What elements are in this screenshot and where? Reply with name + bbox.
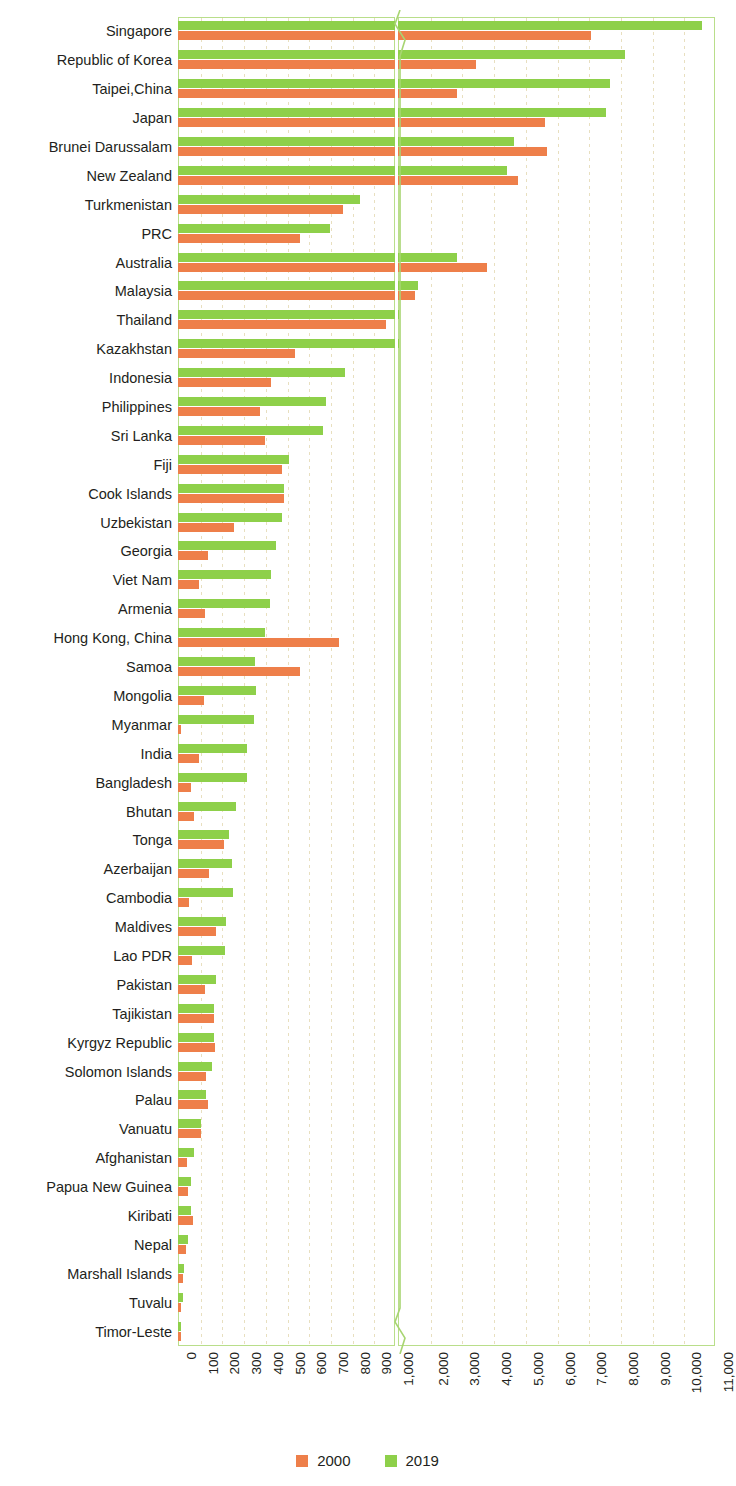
category-label: Nepal xyxy=(0,1238,172,1252)
legend-item[interactable]: 2019 xyxy=(385,1452,439,1469)
bar-2000 xyxy=(178,927,216,936)
bar-2019 xyxy=(178,513,282,522)
bar-2019-high-range xyxy=(398,253,457,262)
bar-2019 xyxy=(178,1004,214,1013)
category-label: Philippines xyxy=(0,400,172,414)
bar-row xyxy=(178,1004,715,1024)
x-tick-label: 0 xyxy=(184,1352,199,1360)
bar-row xyxy=(178,108,715,128)
category-label: Marshall Islands xyxy=(0,1267,172,1281)
category-label: Armenia xyxy=(0,602,172,616)
bar-2019 xyxy=(178,599,270,608)
bar-row xyxy=(178,455,715,475)
x-tick-label: 3,000 xyxy=(467,1352,482,1386)
bar-2019 xyxy=(178,1206,191,1215)
bar-2000-high-range xyxy=(398,176,518,185)
bar-2000 xyxy=(178,407,260,416)
bar-2019 xyxy=(178,195,360,204)
bar-2019-high-range xyxy=(398,281,418,290)
bar-row xyxy=(178,1148,715,1168)
bar-row xyxy=(178,744,715,764)
bar-2000-high-range xyxy=(398,89,457,98)
bar-2019 xyxy=(178,426,323,435)
bar-2000 xyxy=(178,667,300,676)
bar-2019 xyxy=(178,773,247,782)
x-tick-label: 500 xyxy=(293,1352,308,1375)
bar-row xyxy=(178,137,715,157)
bar-2000 xyxy=(178,1043,215,1052)
category-label: Bangladesh xyxy=(0,776,172,790)
category-label: Kiribati xyxy=(0,1209,172,1223)
bar-2000 xyxy=(178,1274,183,1283)
bar-row xyxy=(178,773,715,793)
bar-row xyxy=(178,657,715,677)
category-label: Uzbekistan xyxy=(0,516,172,530)
category-label: Republic of Korea xyxy=(0,53,172,67)
bar-2019-high-range xyxy=(398,50,625,59)
bar-2019 xyxy=(178,1235,188,1244)
bar-2000-high-range xyxy=(398,118,545,127)
bar-row xyxy=(178,1206,715,1226)
bar-2019 xyxy=(178,137,395,146)
x-tick-label: 600 xyxy=(314,1352,329,1375)
bar-row xyxy=(178,541,715,561)
bar-row xyxy=(178,570,715,590)
bar-row xyxy=(178,1062,715,1082)
x-tick-label: 100 xyxy=(206,1352,221,1375)
bar-2019 xyxy=(178,686,256,695)
bar-2000 xyxy=(178,205,343,214)
x-tick-label: 1,000 xyxy=(401,1352,416,1386)
category-label: Indonesia xyxy=(0,371,172,385)
bar-2019 xyxy=(178,830,229,839)
bar-2019 xyxy=(178,917,226,926)
bar-row xyxy=(178,802,715,822)
legend-item[interactable]: 2000 xyxy=(296,1452,350,1469)
bar-2019 xyxy=(178,1264,184,1273)
bar-row xyxy=(178,859,715,879)
legend-label: 2000 xyxy=(317,1452,350,1469)
bar-row xyxy=(178,484,715,504)
bar-2019-high-range xyxy=(398,21,702,30)
bar-2019 xyxy=(178,1177,191,1186)
bar-2019 xyxy=(178,1090,206,1099)
bar-row xyxy=(178,310,715,330)
category-label: Pakistan xyxy=(0,978,172,992)
bar-2000 xyxy=(178,783,191,792)
bar-row xyxy=(178,281,715,301)
bar-2000 xyxy=(178,291,395,300)
bar-row xyxy=(178,946,715,966)
x-tick-label: 9,000 xyxy=(658,1352,673,1386)
bar-2019 xyxy=(178,339,395,348)
bar-2000 xyxy=(178,1187,188,1196)
category-label: Kyrgyz Republic xyxy=(0,1036,172,1050)
x-tick-label: 6,000 xyxy=(563,1352,578,1386)
bar-row xyxy=(178,253,715,273)
bar-2000 xyxy=(178,176,395,185)
category-label: Vanuatu xyxy=(0,1122,172,1136)
bar-row xyxy=(178,166,715,186)
bar-2019 xyxy=(178,368,345,377)
bar-row xyxy=(178,426,715,446)
bar-2019 xyxy=(178,253,395,262)
plot-area xyxy=(178,17,715,1346)
x-tick-label: 900 xyxy=(379,1352,394,1375)
category-label: Myanmar xyxy=(0,718,172,732)
bar-2000-high-range xyxy=(398,31,591,40)
bar-2019 xyxy=(178,859,232,868)
bar-row xyxy=(178,513,715,533)
category-label: Taipei,China xyxy=(0,82,172,96)
bar-2000 xyxy=(178,349,295,358)
bar-2000 xyxy=(178,320,386,329)
bar-2000 xyxy=(178,812,194,821)
bar-2019 xyxy=(178,946,225,955)
bar-row xyxy=(178,975,715,995)
bar-2019 xyxy=(178,975,216,984)
bar-2000 xyxy=(178,1245,186,1254)
category-label: Viet Nam xyxy=(0,573,172,587)
value-axis-labels: 01002003004005006007008009001,0002,0003,… xyxy=(0,1352,735,1442)
legend-label: 2019 xyxy=(406,1452,439,1469)
bar-2000 xyxy=(178,1129,201,1138)
bar-2000 xyxy=(178,638,339,647)
category-label: Cook Islands xyxy=(0,487,172,501)
bar-2000 xyxy=(178,234,300,243)
